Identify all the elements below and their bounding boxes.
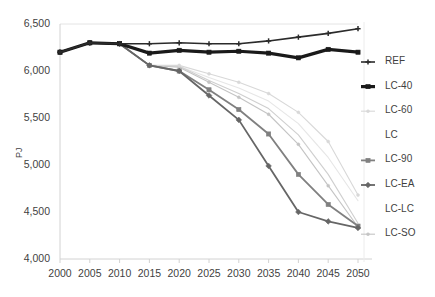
series-marker-lc-so — [327, 184, 330, 187]
series-marker-lc-40 — [207, 50, 211, 54]
series-marker-lc-90 — [207, 88, 211, 92]
series-marker-lc-40 — [237, 49, 241, 53]
series-marker-lc-90 — [237, 107, 241, 111]
y-axis-title: PJ — [14, 147, 24, 158]
legend-marker-lc-90 — [366, 158, 370, 162]
series-marker-lc-40 — [296, 56, 300, 60]
legend-label-lc-40[interactable]: LC-40 — [385, 80, 412, 91]
series-lc — [60, 43, 358, 201]
series-line-lc — [60, 43, 358, 201]
y-axis-tick-label: 5,500 — [6, 111, 50, 123]
x-axis-tick-label: 2050 — [338, 267, 378, 279]
legend-label-lc-so[interactable]: LC-SO — [385, 227, 416, 238]
series-marker-lc-40 — [147, 51, 151, 55]
series-line-lc-60 — [60, 43, 358, 195]
series-marker-lc-so — [267, 113, 270, 116]
series-line-lc-ea — [60, 43, 358, 228]
series-lc-lc — [60, 43, 358, 223]
series-marker-lc-40 — [326, 47, 330, 51]
series-marker-lc-40 — [177, 48, 181, 52]
series-lc-90 — [58, 41, 360, 229]
series-marker-lc-so — [237, 96, 240, 99]
line-chart: 6,5006,0005,5005,0004,5004,0002000200520… — [0, 0, 435, 297]
legend-label-lc-90[interactable]: LC-90 — [385, 153, 412, 164]
series-marker-lc-90 — [326, 202, 330, 206]
series-marker-lc-60 — [267, 92, 270, 95]
legend-entry-lc-40[interactable] — [361, 85, 375, 89]
legend-entry-lc-60[interactable] — [361, 110, 375, 113]
legend-label-lc-lc[interactable]: LC-LC — [385, 203, 414, 214]
series-marker-lc-60 — [327, 140, 330, 143]
series-marker-lc-ea — [325, 219, 331, 225]
series-marker-lc-90 — [296, 172, 300, 176]
series-marker-lc-40 — [356, 50, 360, 54]
y-axis-tick-label: 6,500 — [6, 17, 50, 29]
series-lc-ea — [57, 40, 361, 231]
series-marker-lc-so — [208, 81, 211, 84]
series-marker-lc-so — [297, 143, 300, 146]
series-marker-lc-60 — [297, 111, 300, 114]
legend-marker-lc-ea — [365, 182, 371, 188]
y-axis-tick-label: 5,000 — [6, 158, 50, 170]
y-axis-tick-label: 4,000 — [6, 252, 50, 264]
series-marker-lc-60 — [237, 81, 240, 84]
series-marker-lc-60 — [357, 194, 360, 197]
legend-label-ref[interactable]: REF — [385, 55, 405, 66]
series-line-lc-lc — [60, 43, 358, 223]
legend-label-lc-ea[interactable]: LC-EA — [385, 178, 414, 189]
series-marker-lc-40 — [267, 51, 271, 55]
series-line-lc-so — [60, 43, 358, 227]
series-lc-so — [59, 41, 360, 228]
chart-canvas — [0, 0, 435, 297]
legend-label-lc-60[interactable]: LC-60 — [385, 104, 412, 115]
legend-marker-lc-60 — [367, 110, 370, 113]
legend-label-lc[interactable]: LC — [385, 129, 398, 140]
legend-entry-lc-90[interactable] — [361, 158, 375, 162]
legend-entry-lc-ea[interactable] — [361, 182, 375, 188]
series-marker-lc-60 — [178, 64, 181, 67]
series-marker-lc-90 — [267, 132, 271, 136]
series-line-lc-90 — [60, 43, 358, 226]
y-axis-tick-label: 4,500 — [6, 205, 50, 217]
series-marker-lc-60 — [208, 72, 211, 75]
legend-marker-lc-40 — [366, 85, 370, 89]
series-lc-60 — [59, 41, 360, 196]
series-line-ref — [60, 29, 358, 53]
legend-entry-ref[interactable] — [361, 59, 375, 64]
y-axis-tick-label: 6,000 — [6, 64, 50, 76]
legend-entry-lc-so[interactable] — [361, 233, 375, 236]
legend-marker-lc-so — [367, 233, 370, 236]
